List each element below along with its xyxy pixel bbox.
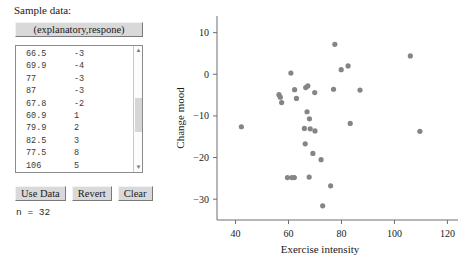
revert-button[interactable]: Revert [72, 186, 112, 201]
data-point [292, 87, 297, 92]
x-tick-label: 40 [231, 228, 241, 239]
data-point [318, 157, 323, 162]
data-point [288, 70, 293, 75]
data-point [303, 141, 308, 146]
plot-axes [217, 16, 458, 220]
y-tick-label: 10 [199, 27, 209, 38]
data-cell-response: 3 [74, 135, 114, 147]
y-axis-title: Change mood [174, 87, 186, 149]
data-row[interactable]: 77.58 [16, 147, 133, 159]
data-cell-response: -3 [74, 73, 114, 85]
data-cell-response: -3 [74, 85, 114, 97]
data-row[interactable]: 69.9-4 [16, 60, 133, 72]
data-point [302, 126, 307, 131]
data-cell-response: 5 [74, 160, 114, 172]
data-cell-explanatory: 67.8 [26, 98, 74, 110]
data-point [285, 175, 290, 180]
data-point [332, 42, 337, 47]
data-point [307, 116, 312, 121]
data-point [308, 126, 313, 131]
x-axis-title: Exercise intensity [281, 243, 360, 255]
data-row[interactable]: 87-3 [16, 85, 133, 97]
data-point [320, 203, 325, 208]
panel-button-row: Use Data Revert Clear [15, 186, 153, 201]
data-cell-response: -3 [74, 48, 114, 60]
axis-frame [217, 16, 458, 220]
y-tick-label: 0 [204, 69, 209, 80]
data-cell-explanatory: 106 [26, 160, 74, 172]
data-cell-response: 8 [74, 147, 114, 159]
data-point [417, 129, 422, 134]
data-point [312, 128, 317, 133]
data-point [292, 175, 297, 180]
data-point [304, 109, 309, 114]
data-point [307, 175, 312, 180]
data-cell-explanatory: 69.9 [26, 60, 74, 72]
data-cell-response: 1 [74, 110, 114, 122]
data-row[interactable]: 66.5-3 [16, 48, 133, 60]
x-tick-label: 120 [440, 228, 455, 239]
data-row[interactable]: 82.53 [16, 135, 133, 147]
scatter-plot-panel: 100−10−20−30406080100120 Exercise intens… [170, 0, 462, 265]
data-point [357, 88, 362, 93]
data-cell-response: 2 [74, 122, 114, 134]
data-cell-explanatory: 79.9 [26, 122, 74, 134]
sample-data-panel: Sample data: (explanatory,respone) 66.5-… [0, 0, 170, 265]
scrollbar-thumb[interactable] [135, 98, 142, 132]
data-cell-explanatory: 77.5 [26, 147, 74, 159]
data-point [294, 96, 299, 101]
data-cell-response: -4 [74, 60, 114, 72]
data-point [348, 121, 353, 126]
data-point [345, 63, 350, 68]
data-row[interactable]: 79.92 [16, 122, 133, 134]
data-point [408, 53, 413, 58]
data-cell-explanatory: 60.9 [26, 110, 74, 122]
scatter-plot-svg: 100−10−20−30406080100120 Exercise intens… [170, 0, 462, 265]
data-point [331, 87, 336, 92]
clear-button[interactable]: Clear [118, 186, 153, 201]
data-point [239, 124, 244, 129]
data-cell-explanatory: 77 [26, 73, 74, 85]
sample-size-label: n = 32 [16, 207, 50, 218]
data-point [339, 67, 344, 72]
data-row[interactable]: 77-3 [16, 73, 133, 85]
scroll-up-arrow-icon[interactable]: ▲ [135, 47, 142, 54]
data-cell-explanatory: 66.5 [26, 48, 74, 60]
data-row[interactable]: 1065 [16, 160, 133, 172]
data-point [278, 95, 283, 100]
data-cell-response: -2 [74, 98, 114, 110]
data-point [328, 183, 333, 188]
data-point [279, 100, 284, 105]
data-row[interactable]: 67.8-2 [16, 98, 133, 110]
x-tick-label: 80 [336, 228, 346, 239]
data-list-box[interactable]: 66.5-369.9-477-387-367.8-260.9179.9282.5… [15, 45, 143, 173]
data-point [310, 151, 315, 156]
x-tick-label: 100 [387, 228, 402, 239]
data-rows: 66.5-369.9-477-387-367.8-260.9179.9282.5… [16, 48, 133, 172]
data-cell-explanatory: 87 [26, 85, 74, 97]
use-data-button[interactable]: Use Data [15, 186, 66, 201]
data-cell-explanatory: 82.5 [26, 135, 74, 147]
variable-header-button[interactable]: (explanatory,respone) [15, 22, 143, 37]
sample-data-title: Sample data: [14, 4, 71, 16]
plot-data-points [239, 42, 423, 209]
x-tick-label: 60 [284, 228, 294, 239]
y-tick-label: −10 [193, 110, 209, 121]
data-row[interactable]: 60.91 [16, 110, 133, 122]
y-tick-label: −20 [193, 152, 209, 163]
data-point [305, 83, 310, 88]
scroll-down-arrow-icon[interactable]: ▼ [135, 164, 142, 171]
y-tick-label: −30 [193, 194, 209, 205]
data-scrollbar[interactable]: ▲ ▼ [133, 46, 142, 172]
data-point [312, 90, 317, 95]
